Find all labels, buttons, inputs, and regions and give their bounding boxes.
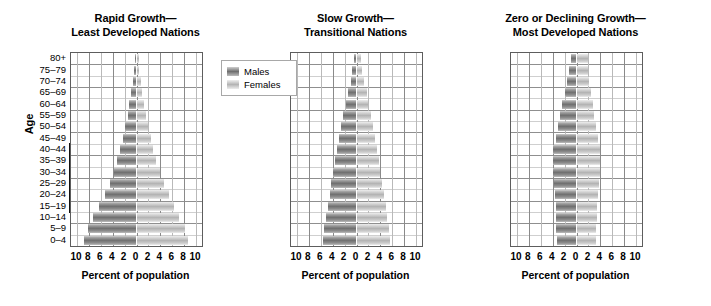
bar-males <box>560 111 576 120</box>
legend: Males Females <box>221 60 297 96</box>
bar-males <box>326 213 356 222</box>
bar-males <box>93 213 136 222</box>
bar-males <box>105 190 137 199</box>
gridline-vertical <box>624 53 625 246</box>
bar-males <box>99 202 137 211</box>
pyramid-panel: Zero or Declining Growth—Most Developed … <box>492 0 659 306</box>
x-axis-title: Percent of population <box>492 269 659 281</box>
gridline-vertical <box>196 53 197 246</box>
bar-females <box>357 236 390 245</box>
bar-males <box>555 190 576 199</box>
bar-females <box>577 156 601 165</box>
bar-females <box>137 224 185 233</box>
bar-males <box>330 190 357 199</box>
legend-label-females: Females <box>244 79 280 90</box>
bar-males <box>348 88 356 97</box>
bar-females <box>357 213 387 222</box>
x-tick-label: 10 <box>625 251 645 262</box>
bar-females <box>577 236 596 245</box>
bar-males <box>328 202 357 211</box>
bar-males <box>110 179 137 188</box>
pyramid-panel: Slow Growth—Transitional Nations10864202… <box>272 0 439 306</box>
bar-females <box>137 156 157 165</box>
gridline-vertical <box>404 53 405 246</box>
gridline-vertical <box>309 53 310 246</box>
bar-females <box>137 134 151 143</box>
bar-males <box>323 236 357 245</box>
gridline-vertical <box>321 53 322 246</box>
gridline-vertical <box>89 53 90 246</box>
bar-males <box>114 168 137 177</box>
bar-males <box>553 168 576 177</box>
bar-females <box>357 122 374 131</box>
bar-females <box>577 111 595 120</box>
x-tick-label: 10 <box>405 251 425 262</box>
gridline-vertical <box>529 53 530 246</box>
panel-title-line-1: Zero or Declining Growth— <box>505 12 646 24</box>
bar-females <box>137 168 160 177</box>
bar-males <box>556 224 576 233</box>
bar-females <box>357 100 369 109</box>
females-swatch-icon <box>227 80 239 89</box>
x-axis-ticks: 1086420246810 <box>290 251 421 265</box>
bar-males <box>324 224 356 233</box>
bar-females <box>137 145 154 154</box>
bar-males <box>553 156 577 165</box>
bar-females <box>357 156 379 165</box>
bar-females <box>357 202 386 211</box>
gridline-vertical <box>392 53 393 246</box>
panel-title-line-1: Rapid Growth— <box>95 12 177 24</box>
bar-females <box>357 190 384 199</box>
bar-males <box>341 122 356 131</box>
bar-females <box>357 111 371 120</box>
legend-row-males: Males <box>227 65 289 78</box>
bar-females <box>577 54 588 63</box>
plot-area <box>70 52 203 247</box>
bar-males <box>333 168 356 177</box>
x-axis-title: Percent of population <box>52 269 219 281</box>
bar-females <box>577 145 600 154</box>
gridline-vertical <box>517 53 518 246</box>
x-axis-ticks: 1086420246810 <box>510 251 641 265</box>
bar-females <box>137 190 169 199</box>
bar-females <box>137 179 164 188</box>
bar-males <box>556 134 577 143</box>
bar-males <box>556 213 577 222</box>
bar-females <box>357 88 367 97</box>
bar-males <box>343 111 356 120</box>
panel-title-line-2: Most Developed Nations <box>513 26 639 38</box>
legend-label-males: Males <box>244 66 269 77</box>
gridline-vertical <box>612 53 613 246</box>
bar-females <box>577 202 598 211</box>
bar-males <box>331 179 356 188</box>
bar-males <box>125 122 136 131</box>
bar-males <box>553 145 576 154</box>
bar-males <box>123 134 137 143</box>
bar-females <box>137 213 180 222</box>
bar-males <box>558 122 576 131</box>
bar-females <box>577 213 597 222</box>
bar-females <box>357 168 381 177</box>
bar-females <box>357 145 377 154</box>
bar-females <box>357 179 383 188</box>
bar-males <box>129 100 136 109</box>
bar-males <box>562 100 576 109</box>
panel-title: Zero or Declining Growth—Most Developed … <box>492 12 659 39</box>
bar-females <box>137 77 141 86</box>
bar-females <box>577 179 599 188</box>
bar-males <box>337 145 357 154</box>
gridline-vertical <box>600 53 601 246</box>
bar-males <box>120 145 136 154</box>
gridline-vertical <box>416 53 417 246</box>
bar-females <box>577 168 600 177</box>
bar-males <box>84 236 137 245</box>
bar-males <box>339 134 357 143</box>
bar-males <box>117 156 136 165</box>
pyramid-panel: Rapid Growth—Least Developed Nations1086… <box>52 0 219 306</box>
panel-title-line-1: Slow Growth— <box>317 12 394 24</box>
bar-females <box>137 122 149 131</box>
bar-males <box>88 224 137 233</box>
bar-females <box>357 224 389 233</box>
gridline-vertical <box>541 53 542 246</box>
bar-females <box>137 88 143 97</box>
